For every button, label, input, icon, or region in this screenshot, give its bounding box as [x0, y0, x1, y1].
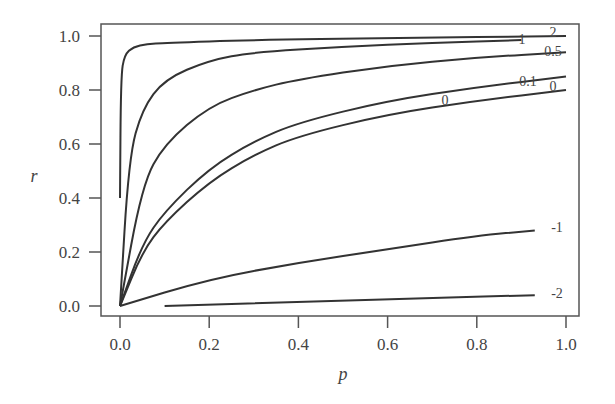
plot-frame	[101, 24, 579, 316]
x-axis-label: p	[337, 364, 348, 384]
curve-0.1	[120, 77, 566, 307]
curve-label: 0	[442, 93, 449, 108]
x-tick-label: 0.6	[377, 335, 398, 354]
y-tick-label: 0.0	[59, 297, 80, 316]
y-tick-label: 0.6	[59, 135, 80, 154]
x-tick-label: 0.2	[199, 335, 220, 354]
curve-label: -2	[551, 286, 563, 301]
y-tick-label: 1.0	[59, 27, 80, 46]
y-tick-label: 0.2	[59, 243, 80, 262]
curve-0	[120, 90, 566, 306]
y-tick-label: 0.4	[59, 189, 81, 208]
curve-0.5	[120, 52, 566, 306]
curve--2	[165, 295, 535, 306]
x-tick-label: 0.8	[466, 335, 487, 354]
curve--1	[120, 230, 535, 306]
curve-label: 0.1	[519, 74, 537, 89]
curve-2	[120, 36, 566, 198]
x-tick-label: 0.4	[288, 335, 310, 354]
curve-label: -1	[551, 220, 563, 235]
curve-label: 2	[550, 25, 557, 40]
y-tick-label: 0.8	[59, 81, 80, 100]
curve-label: 1	[519, 32, 526, 47]
curve-label: 0	[550, 79, 557, 94]
curve-1	[120, 40, 521, 306]
x-tick-label: 1.0	[555, 335, 576, 354]
x-tick-label: 0.0	[109, 335, 130, 354]
chart: 0.00.20.40.60.81.00.00.20.40.60.81.0pr21…	[0, 0, 615, 404]
y-axis-label: r	[30, 166, 38, 186]
curve-label: 0.5	[544, 44, 562, 59]
